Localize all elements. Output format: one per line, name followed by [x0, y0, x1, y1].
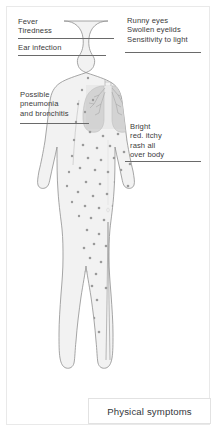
lungs	[83, 85, 133, 132]
human-body-figure	[0, 0, 217, 432]
sinus-region	[115, 39, 127, 47]
leader-line-pneumonia-bronchitis	[20, 123, 89, 124]
ear-shape	[97, 42, 102, 48]
head-profile	[97, 23, 127, 66]
diagram-root: Fever Tiredness Ear infection Possible p…	[0, 0, 217, 432]
label-eye-symptoms: Runny eyes Swollen eyelids Sensitivity t…	[127, 16, 188, 44]
leader-line-eye-symptoms	[125, 52, 201, 53]
caption-box: Physical symptoms	[88, 398, 211, 424]
leader-line-ear-infection	[18, 55, 106, 56]
label-fever-tiredness: Fever Tiredness	[18, 17, 52, 36]
caption-label: Physical symptoms	[107, 406, 192, 417]
label-rash: Bright red. itchy rash all over body	[130, 122, 164, 159]
body-silhouette	[38, 21, 135, 368]
leader-line-rash	[125, 161, 201, 162]
label-possible-pneumonia-bronchitis: Possible pneumonia and bronchitis	[20, 90, 69, 118]
label-ear-infection: Ear infection	[18, 43, 62, 52]
leader-line-fever-tiredness	[18, 38, 114, 39]
